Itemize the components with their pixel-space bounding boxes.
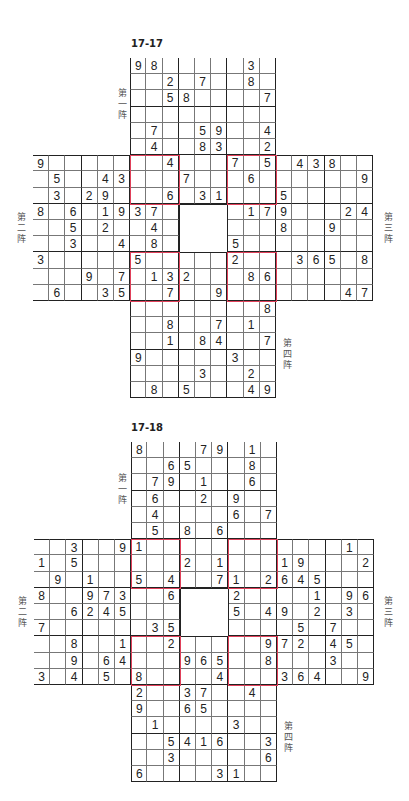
sudoku-cell[interactable] [130, 317, 146, 333]
sudoku-cell[interactable] [211, 252, 227, 268]
sudoku-cell[interactable] [244, 139, 260, 155]
sudoku-cell[interactable] [261, 474, 277, 490]
sudoku-cell[interactable] [163, 171, 179, 187]
sudoku-cell[interactable] [228, 474, 244, 490]
sudoku-cell[interactable] [293, 653, 309, 669]
sudoku-cell[interactable] [212, 507, 228, 523]
sudoku-cell[interactable] [146, 188, 162, 204]
sudoku-cell[interactable] [228, 636, 244, 652]
sudoku-cell[interactable] [130, 74, 146, 90]
sudoku-cell[interactable] [33, 220, 49, 236]
sudoku-cell[interactable] [342, 572, 358, 588]
sudoku-cell[interactable] [33, 171, 49, 187]
sudoku-cell[interactable] [228, 539, 244, 555]
sudoku-cell[interactable] [261, 669, 277, 685]
sudoku-cell[interactable] [260, 252, 276, 268]
sudoku-cell[interactable] [66, 588, 82, 604]
sudoku-cell[interactable] [180, 491, 196, 507]
sudoku-cell[interactable] [83, 636, 99, 652]
sudoku-cell[interactable] [196, 572, 212, 588]
sudoku-cell[interactable] [147, 539, 163, 555]
sudoku-cell[interactable] [164, 685, 180, 701]
sudoku-cell[interactable] [227, 123, 243, 139]
sudoku-cell[interactable] [261, 555, 277, 571]
sudoku-cell[interactable] [358, 539, 374, 555]
sudoku-cell[interactable] [211, 107, 227, 123]
sudoku-cell[interactable] [277, 588, 293, 604]
sudoku-cell[interactable] [195, 58, 211, 74]
sudoku-cell[interactable] [227, 285, 243, 301]
sudoku-cell[interactable] [245, 620, 261, 636]
sudoku-cell[interactable] [131, 636, 147, 652]
sudoku-cell[interactable] [358, 653, 374, 669]
sudoku-cell[interactable] [292, 204, 308, 220]
sudoku-cell[interactable] [195, 285, 211, 301]
sudoku-cell[interactable] [309, 539, 325, 555]
sudoku-cell[interactable] [146, 366, 162, 382]
sudoku-cell[interactable] [245, 507, 261, 523]
sudoku-cell[interactable] [180, 669, 196, 685]
sudoku-cell[interactable] [292, 220, 308, 236]
sudoku-cell[interactable] [260, 107, 276, 123]
sudoku-cell[interactable] [130, 236, 146, 252]
sudoku-cell[interactable] [98, 252, 114, 268]
sudoku-cell[interactable] [211, 301, 227, 317]
sudoku-cell[interactable] [99, 636, 115, 652]
sudoku-cell[interactable] [245, 604, 261, 620]
sudoku-cell[interactable] [260, 236, 276, 252]
sudoku-cell[interactable] [131, 523, 147, 539]
sudoku-cell[interactable] [228, 458, 244, 474]
sudoku-cell[interactable] [50, 588, 66, 604]
sudoku-cell[interactable] [164, 523, 180, 539]
sudoku-cell[interactable] [227, 382, 243, 398]
sudoku-cell[interactable] [82, 204, 98, 220]
sudoku-cell[interactable] [276, 285, 292, 301]
sudoku-cell[interactable] [358, 636, 374, 652]
sudoku-cell[interactable] [227, 220, 243, 236]
sudoku-cell[interactable] [49, 252, 65, 268]
sudoku-cell[interactable] [309, 653, 325, 669]
sudoku-cell[interactable] [147, 458, 163, 474]
sudoku-cell[interactable] [115, 572, 131, 588]
sudoku-cell[interactable] [358, 604, 374, 620]
sudoku-cell[interactable] [195, 317, 211, 333]
sudoku-cell[interactable] [33, 285, 49, 301]
sudoku-cell[interactable] [163, 366, 179, 382]
sudoku-cell[interactable] [195, 107, 211, 123]
sudoku-cell[interactable] [179, 188, 195, 204]
sudoku-cell[interactable] [49, 269, 65, 285]
sudoku-cell[interactable] [163, 204, 179, 220]
sudoku-cell[interactable] [131, 555, 147, 571]
sudoku-cell[interactable] [196, 750, 212, 766]
sudoku-cell[interactable] [245, 636, 261, 652]
sudoku-cell[interactable] [261, 491, 277, 507]
sudoku-cell[interactable] [308, 285, 324, 301]
sudoku-cell[interactable] [114, 220, 130, 236]
sudoku-cell[interactable] [65, 269, 81, 285]
sudoku-cell[interactable] [228, 442, 244, 458]
sudoku-cell[interactable] [147, 750, 163, 766]
sudoku-cell[interactable] [146, 252, 162, 268]
sudoku-cell[interactable] [179, 155, 195, 171]
sudoku-cell[interactable] [179, 139, 195, 155]
sudoku-cell[interactable] [309, 555, 325, 571]
sudoku-cell[interactable] [163, 350, 179, 366]
sudoku-cell[interactable] [227, 90, 243, 106]
sudoku-cell[interactable] [163, 123, 179, 139]
sudoku-cell[interactable] [83, 669, 99, 685]
sudoku-cell[interactable] [66, 572, 82, 588]
sudoku-cell[interactable] [34, 539, 50, 555]
sudoku-cell[interactable] [196, 507, 212, 523]
sudoku-cell[interactable] [179, 107, 195, 123]
sudoku-cell[interactable] [227, 139, 243, 155]
sudoku-cell[interactable] [244, 285, 260, 301]
sudoku-cell[interactable] [341, 269, 357, 285]
sudoku-cell[interactable] [196, 523, 212, 539]
sudoku-cell[interactable] [228, 653, 244, 669]
sudoku-cell[interactable] [277, 539, 293, 555]
sudoku-cell[interactable] [309, 620, 325, 636]
sudoku-cell[interactable] [179, 366, 195, 382]
sudoku-cell[interactable] [293, 604, 309, 620]
sudoku-cell[interactable] [50, 653, 66, 669]
sudoku-cell[interactable] [326, 539, 342, 555]
